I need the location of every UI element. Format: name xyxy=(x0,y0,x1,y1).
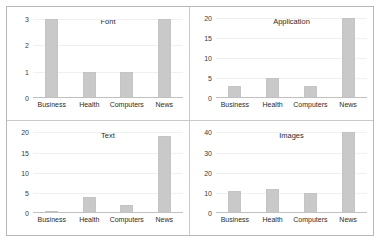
x-axis-tick-label: Business xyxy=(221,101,249,108)
y-axis-tick-label: 0 xyxy=(208,210,212,217)
bar-slot: Business xyxy=(33,16,71,98)
y-axis-tick-label: 20 xyxy=(204,169,212,176)
x-axis-tick-label: Health xyxy=(79,216,99,223)
x-axis-tick-label: Business xyxy=(38,101,66,108)
y-axis-tick-label: 15 xyxy=(21,149,29,156)
x-axis-tick-label: News xyxy=(155,216,173,223)
x-axis-tick-label: Business xyxy=(38,216,66,223)
y-axis-tick-label: 0 xyxy=(25,95,29,102)
bar xyxy=(342,18,355,98)
y-axis-tick-label: 40 xyxy=(204,129,212,136)
y-axis-tick-label: 10 xyxy=(21,169,29,176)
bar-slot: Health xyxy=(254,16,292,98)
chart-panel-font: Font 0123 BusinessHealthComputersNews xyxy=(7,7,190,121)
bar-slot: Business xyxy=(216,130,254,213)
bar-slot: Computers xyxy=(108,16,146,98)
x-axis-tick-label: Computers xyxy=(110,101,144,108)
bar xyxy=(158,19,171,98)
y-axis-tick-label: 5 xyxy=(208,75,212,82)
bar xyxy=(120,72,133,98)
y-axis-tick-label: 0 xyxy=(208,95,212,102)
y-axis-tick-label: 0 xyxy=(25,210,29,217)
bar-series-font: BusinessHealthComputersNews xyxy=(33,16,183,98)
bar-series-application: BusinessHealthComputersNews xyxy=(216,16,367,98)
bar-slot: News xyxy=(146,16,184,98)
plot-area-font: Font 0123 BusinessHealthComputersNews xyxy=(33,16,183,98)
x-axis-tick-label: Health xyxy=(263,101,283,108)
bar xyxy=(342,132,355,213)
figure-canvas: Font 0123 BusinessHealthComputersNews Ap… xyxy=(0,0,380,242)
x-axis-tick-label: Business xyxy=(221,216,249,223)
x-axis-line xyxy=(33,97,183,98)
bar-slot: Computers xyxy=(292,130,330,213)
bar xyxy=(228,191,241,213)
chart-panel-images: Images 010203040 BusinessHealthComputers… xyxy=(190,121,373,235)
y-axis-tick-label: 10 xyxy=(204,55,212,62)
bar-series-text: BusinessHealthComputersNews xyxy=(33,130,183,213)
y-axis-tick-label: 30 xyxy=(204,149,212,156)
y-axis-tick-label: 20 xyxy=(21,129,29,136)
bar-slot: Health xyxy=(71,130,109,213)
bar-series-images: BusinessHealthComputersNews xyxy=(216,130,367,213)
x-axis-line xyxy=(216,212,367,213)
y-axis-tick-label: 10 xyxy=(204,189,212,196)
y-axis-tick-label: 5 xyxy=(25,189,29,196)
bar-slot: Health xyxy=(254,130,292,213)
bar-slot: News xyxy=(329,130,367,213)
bar xyxy=(45,19,58,98)
y-axis-tick-label: 3 xyxy=(25,15,29,22)
bar-slot: Computers xyxy=(292,16,330,98)
plot-area-images: Images 010203040 BusinessHealthComputers… xyxy=(216,130,367,213)
bar xyxy=(83,197,96,213)
bar-slot: News xyxy=(329,16,367,98)
figure-frame: Font 0123 BusinessHealthComputersNews Ap… xyxy=(6,6,374,236)
x-axis-tick-label: Computers xyxy=(293,216,327,223)
x-axis-tick-label: News xyxy=(339,216,357,223)
y-axis-tick-label: 2 xyxy=(25,42,29,49)
bar-slot: Business xyxy=(216,16,254,98)
bar xyxy=(304,193,317,213)
bar xyxy=(266,78,279,98)
chart-panel-application: Application 05101520 BusinessHealthCompu… xyxy=(190,7,373,121)
x-axis-tick-label: News xyxy=(155,101,173,108)
panel-grid: Font 0123 BusinessHealthComputersNews Ap… xyxy=(7,7,373,235)
x-axis-tick-label: Health xyxy=(263,216,283,223)
bar-slot: Computers xyxy=(108,130,146,213)
x-axis-tick-label: News xyxy=(339,101,357,108)
bar-slot: Business xyxy=(33,130,71,213)
bar-slot: News xyxy=(146,130,184,213)
bar xyxy=(158,136,171,213)
chart-panel-text: Text 05101520 BusinessHealthComputersNew… xyxy=(7,121,190,235)
y-axis-tick-label: 1 xyxy=(25,68,29,75)
x-axis-line xyxy=(33,212,183,213)
bar xyxy=(83,72,96,98)
bar-slot: Health xyxy=(71,16,109,98)
plot-area-text: Text 05101520 BusinessHealthComputersNew… xyxy=(33,130,183,213)
y-axis-tick-label: 15 xyxy=(204,35,212,42)
x-axis-tick-label: Computers xyxy=(110,216,144,223)
x-axis-line xyxy=(216,97,367,98)
y-axis-tick-label: 20 xyxy=(204,15,212,22)
x-axis-tick-label: Health xyxy=(79,101,99,108)
plot-area-application: Application 05101520 BusinessHealthCompu… xyxy=(216,16,367,98)
bar xyxy=(266,189,279,213)
x-axis-tick-label: Computers xyxy=(293,101,327,108)
